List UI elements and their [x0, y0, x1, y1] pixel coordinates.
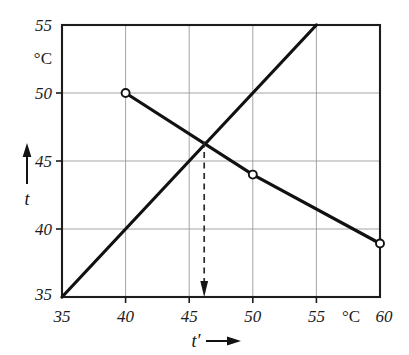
xtick-label-50: 50	[244, 307, 262, 326]
data-point-60-39	[376, 240, 384, 248]
data-point-40-50	[122, 89, 130, 97]
xtick-label-60: 60	[376, 307, 394, 326]
xtick-label-55: 55	[308, 307, 325, 326]
ytick-label-45: 45	[35, 152, 52, 171]
chart-svg: 55 50 45 40 35 °C t 35 40 45 50 55 °C 60…	[0, 0, 409, 355]
data-point-50-44	[249, 171, 257, 179]
xtick-label-40: 40	[117, 307, 135, 326]
xtick-label-35: 35	[53, 307, 71, 326]
ytick-label-35: 35	[34, 285, 52, 304]
x-axis-name-label: t′	[192, 331, 202, 351]
y-axis-unit-label: °C	[34, 49, 52, 68]
ytick-label-40: 40	[35, 220, 53, 239]
ytick-label-55: 55	[35, 16, 52, 35]
chart-figure: 55 50 45 40 35 °C t 35 40 45 50 55 °C 60…	[0, 0, 409, 355]
x-axis-unit-label: °C	[342, 307, 360, 326]
xtick-label-45: 45	[181, 307, 198, 326]
ytick-label-50: 50	[35, 84, 53, 103]
